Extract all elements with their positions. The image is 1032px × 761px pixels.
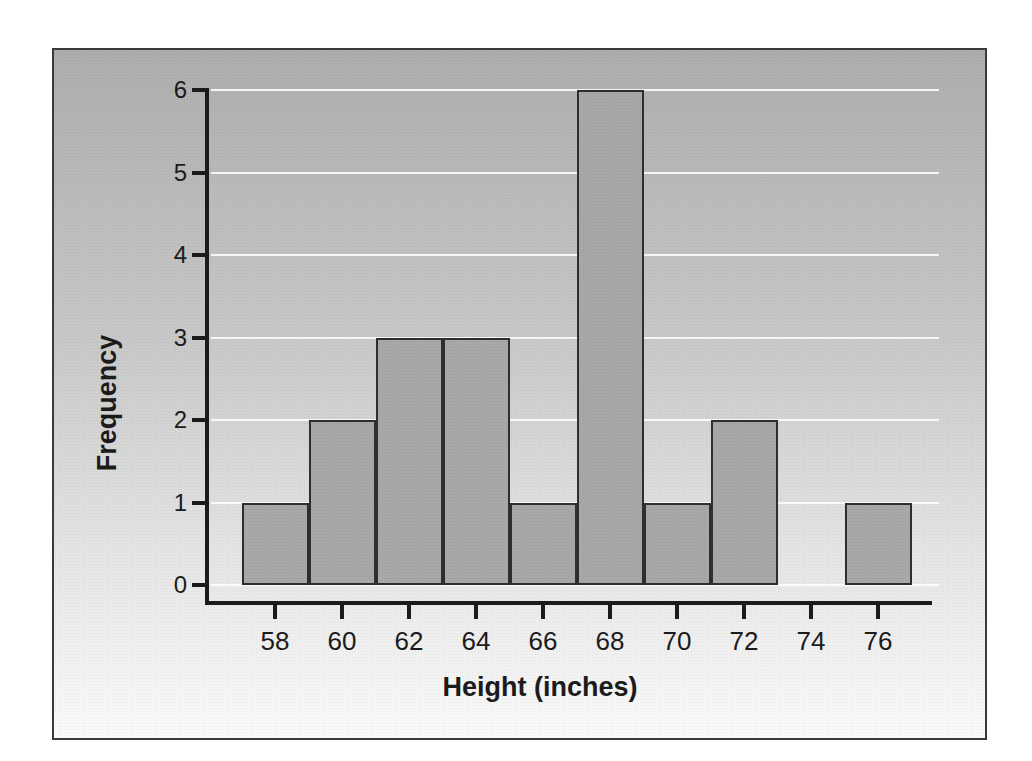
x-tick-label-64: 64 (441, 626, 511, 656)
y-tick-label-6: 6 (127, 75, 187, 105)
histogram-bar-76 (845, 503, 912, 586)
x-tick-68 (608, 605, 612, 619)
y-tick-2 (192, 418, 205, 422)
x-tick-label-60: 60 (307, 626, 377, 656)
x-axis-line (205, 601, 932, 605)
y-tick-label-4: 4 (127, 240, 187, 270)
x-tick-label-68: 68 (575, 626, 645, 656)
y-tick-4 (192, 253, 205, 257)
x-tick-66 (541, 605, 545, 619)
histogram-bar-72 (711, 420, 778, 585)
y-tick-label-5: 5 (127, 158, 187, 188)
x-axis-title: Height (inches) (442, 672, 637, 703)
y-tick-0 (192, 583, 205, 587)
y-tick-5 (192, 171, 205, 175)
gridline-y5 (211, 172, 939, 174)
figure-frame: 012345658606264666870727476 Frequency He… (52, 48, 987, 740)
histogram-bar-70 (644, 503, 711, 586)
x-tick-label-66: 66 (508, 626, 578, 656)
histogram-bar-60 (309, 420, 376, 585)
x-tick-label-62: 62 (374, 626, 444, 656)
x-tick-label-74: 74 (776, 626, 846, 656)
gridline-y3 (211, 337, 939, 339)
histogram-plot-area: 012345658606264666870727476 (54, 50, 985, 738)
histogram-bar-62 (376, 338, 443, 586)
y-tick-label-2: 2 (127, 405, 187, 435)
x-tick-label-58: 58 (240, 626, 310, 656)
y-tick-1 (192, 501, 205, 505)
y-tick-label-1: 1 (127, 488, 187, 518)
x-tick-70 (675, 605, 679, 619)
x-tick-label-76: 76 (843, 626, 913, 656)
histogram-bar-66 (510, 503, 577, 586)
y-axis-line (205, 88, 209, 605)
gridline-y6 (211, 89, 939, 91)
x-tick-58 (273, 605, 277, 619)
x-tick-76 (876, 605, 880, 619)
y-tick-label-3: 3 (127, 323, 187, 353)
x-tick-72 (742, 605, 746, 619)
x-tick-64 (474, 605, 478, 619)
gridline-y4 (211, 254, 939, 256)
x-tick-60 (340, 605, 344, 619)
y-axis-title: Frequency (92, 335, 123, 472)
x-tick-62 (407, 605, 411, 619)
x-tick-label-72: 72 (709, 626, 779, 656)
x-tick-74 (809, 605, 813, 619)
y-tick-3 (192, 336, 205, 340)
histogram-bar-68 (577, 90, 644, 585)
x-tick-label-70: 70 (642, 626, 712, 656)
histogram-bar-64 (443, 338, 510, 586)
y-tick-label-0: 0 (127, 570, 187, 600)
histogram-bar-58 (242, 503, 309, 586)
y-tick-6 (192, 88, 205, 92)
